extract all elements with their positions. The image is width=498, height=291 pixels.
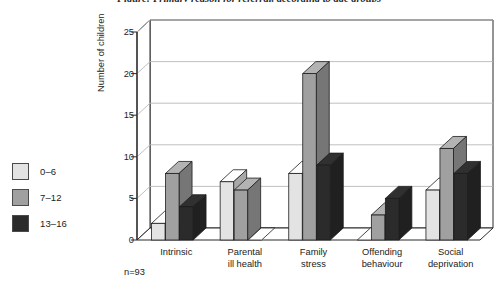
chart-figure: Figure: Primary reason for referral, acc… — [0, 0, 498, 291]
chart-footnote: n=93 — [124, 267, 145, 277]
chart-plot-area — [0, 0, 498, 291]
